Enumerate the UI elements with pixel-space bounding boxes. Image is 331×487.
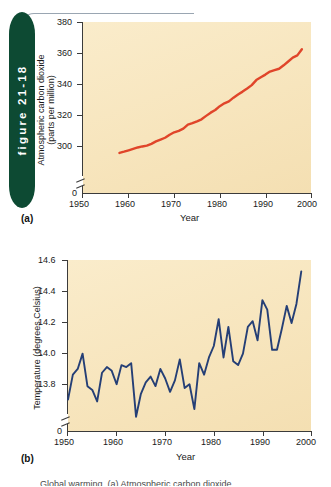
temperature-x-axis-title: Year [176, 451, 195, 462]
co2-data-line [119, 49, 301, 153]
temperature-x-label-1950: 1950 [54, 437, 74, 447]
co2-x-label-1980: 1980 [207, 199, 227, 209]
temperature-x-label-1990: 1990 [250, 437, 270, 447]
temperature-x-label-1980: 1980 [201, 437, 221, 447]
co2-x-label-1960: 1960 [115, 199, 135, 209]
figure-caption-clipped: Global warming. (a) Atmospheric carbon d… [40, 479, 232, 486]
temperature-x-label-1960: 1960 [103, 437, 123, 447]
co2-y-axis-title-line1: Atmospheric carbon dioxide [36, 45, 46, 175]
co2-y-axis-title-line2: (parts per million) [46, 45, 56, 175]
co2-y-label-340: 340 [57, 79, 72, 89]
figure-page: figure 21-18 380 360 340 320 300 0 [0, 0, 331, 487]
chart-temperature: 14.6 14.4 14.2 14.0 13.8 0 1950 1960 197… [0, 248, 331, 487]
co2-y-label-0: 0 [72, 188, 77, 198]
temperature-y-axis-title: Temperature (degrees Celsius) [32, 268, 42, 428]
co2-x-label-1970: 1970 [161, 199, 181, 209]
temperature-data-line-svg [68, 260, 311, 432]
temperature-data-line [68, 271, 301, 416]
co2-y-label-360: 360 [57, 48, 72, 58]
panel-a-letter: (a) [21, 213, 33, 224]
co2-x-axis-title: Year [180, 212, 199, 223]
chart-co2: 380 360 340 320 300 0 1950 1960 1970 198… [0, 0, 331, 240]
panel-b-letter: (b) [21, 453, 34, 464]
temperature-x-label-2000: 2000 [296, 437, 316, 447]
co2-data-line-svg [83, 22, 311, 194]
temperature-x-tick-2000 [311, 431, 312, 436]
co2-x-label-1950: 1950 [69, 199, 89, 209]
co2-x-label-1990: 1990 [253, 199, 273, 209]
temperature-y-label-0: 0 [57, 426, 62, 436]
temperature-x-label-1970: 1970 [152, 437, 172, 447]
co2-y-label-300: 300 [57, 141, 72, 151]
co2-x-label-2000: 2000 [297, 199, 317, 209]
co2-y-label-380: 380 [57, 17, 72, 27]
co2-x-tick-2000 [311, 193, 312, 198]
co2-y-label-320: 320 [57, 110, 72, 120]
temperature-y-label-146: 14.6 [38, 255, 56, 265]
